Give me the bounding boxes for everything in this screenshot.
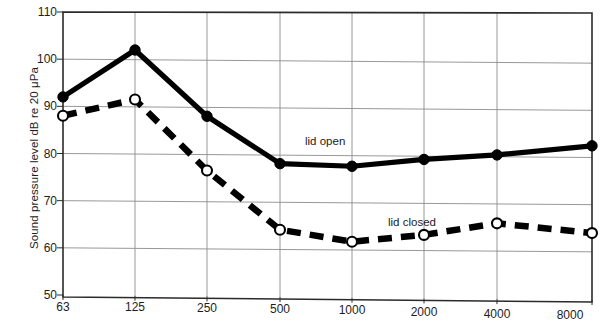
x-tick-label-63: 63 (41, 300, 85, 314)
data-point-lid-closed-125 (130, 94, 140, 104)
data-point-lid-closed-250 (202, 165, 212, 175)
gridline-y-70 (63, 201, 592, 205)
data-point-lid-open-1000 (347, 161, 357, 171)
data-point-lid-open-125 (130, 45, 140, 55)
gridline-y-60 (63, 248, 592, 252)
x-tick-label-250: 250 (185, 301, 229, 315)
data-point-lid-closed-4000 (492, 218, 502, 228)
data-point-lid-closed-8000 (587, 228, 597, 238)
data-point-lid-closed-2000 (419, 230, 429, 240)
data-point-lid-open-4000 (492, 150, 502, 160)
data-point-lid-open-2000 (419, 154, 429, 164)
y-tick-label-60: 60 (31, 241, 57, 255)
data-point-lid-open-250 (202, 111, 212, 121)
x-tick-label-1000: 1000 (330, 303, 374, 317)
x-tick-label-125: 125 (113, 300, 157, 314)
data-point-lid-open-8000 (587, 141, 597, 151)
x-tick-label-8000: 8000 (548, 308, 592, 322)
y-tick-label-70: 70 (31, 194, 57, 208)
chart-figure: Sound pressure level dB re 20 μPa 110 10… (0, 0, 612, 332)
axis-ticks (57, 12, 592, 305)
x-tick-label-2000: 2000 (402, 305, 446, 319)
data-point-lid-open-63 (58, 92, 68, 102)
x-tick-label-500: 500 (258, 302, 302, 316)
y-tick-label-80: 80 (31, 147, 57, 161)
y-tick-label-100: 100 (31, 52, 57, 66)
plot-area (0, 0, 612, 332)
series-label-lid-open: lid open (305, 135, 345, 147)
gridline-y-90 (63, 106, 592, 110)
series-label-lid-closed: lid closed (388, 216, 436, 228)
series-line-lid-closed (63, 99, 592, 241)
y-tick-label-90: 90 (31, 99, 57, 113)
data-point-lid-closed-63 (58, 111, 68, 121)
data-point-lid-closed-500 (275, 225, 285, 235)
data-point-lid-closed-1000 (347, 237, 357, 247)
data-point-lid-open-500 (275, 158, 285, 168)
x-tick-label-4000: 4000 (475, 307, 519, 321)
y-tick-label-110: 110 (31, 5, 57, 19)
